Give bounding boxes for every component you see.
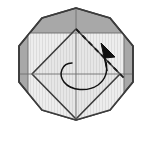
origami-diagram-svg: [0, 0, 153, 163]
origami-figure: Origami fold diagram Decagonal paper wit…: [0, 0, 153, 163]
